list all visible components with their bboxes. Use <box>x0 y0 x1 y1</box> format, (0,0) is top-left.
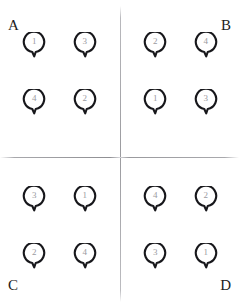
ring-icon: 2 <box>72 89 98 115</box>
ring-icon: 1 <box>72 186 98 212</box>
ring-number: 3 <box>193 94 219 103</box>
ring-icon: 1 <box>142 89 168 115</box>
ring-icon: 3 <box>72 32 98 58</box>
ring-icon: 4 <box>72 243 98 269</box>
ring-number: 3 <box>72 37 98 46</box>
ring-icon: 1 <box>193 243 219 269</box>
ring-icon: 3 <box>142 243 168 269</box>
panel-a-ring-grid: 1 3 4 2 <box>0 32 119 115</box>
ring-number: 2 <box>193 191 219 200</box>
ring-number: 4 <box>21 94 47 103</box>
ring-icon: 2 <box>193 186 219 212</box>
ring-number: 3 <box>21 191 47 200</box>
ring-number: 1 <box>21 37 47 46</box>
panel-label-b: B <box>221 18 231 33</box>
ring-number: 2 <box>72 94 98 103</box>
ring-icon: 1 <box>21 32 47 58</box>
ring-number: 3 <box>142 248 168 257</box>
ring-number: 4 <box>72 248 98 257</box>
ring-icon: 3 <box>21 186 47 212</box>
figure-panel-grid: 1 3 4 2 <box>0 0 239 307</box>
ring-number: 4 <box>193 37 219 46</box>
ring-icon: 2 <box>142 32 168 58</box>
ring-icon: 4 <box>142 186 168 212</box>
ring-number: 1 <box>142 94 168 103</box>
ring-icon: 2 <box>21 243 47 269</box>
panel-label-c: C <box>8 278 18 293</box>
ring-number: 2 <box>142 37 168 46</box>
panel-d-ring-grid: 4 2 3 1 <box>121 186 239 269</box>
panel-label-d: D <box>220 278 231 293</box>
ring-number: 1 <box>193 248 219 257</box>
panel-b-ring-grid: 2 4 1 3 <box>121 32 239 115</box>
panel-label-a: A <box>8 18 19 33</box>
ring-number: 4 <box>142 191 168 200</box>
ring-number: 1 <box>72 191 98 200</box>
ring-icon: 4 <box>193 32 219 58</box>
panel-c-ring-grid: 3 1 2 4 <box>0 186 119 269</box>
ring-icon: 4 <box>21 89 47 115</box>
ring-icon: 3 <box>193 89 219 115</box>
ring-number: 2 <box>21 248 47 257</box>
